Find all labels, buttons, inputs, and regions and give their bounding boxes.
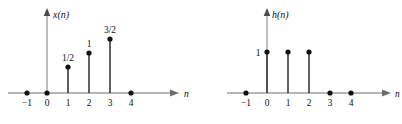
tick-label: −1 [241,98,251,108]
stem-item: 3/2 [104,25,116,93]
zero-sample-dot [348,90,353,95]
x-axis-variable-label: n [395,89,400,99]
amplitude-label-one: 1 [256,48,261,58]
tick-label: 3 [328,98,333,108]
tick-label-group-h: −1 0 1 2 3 4 [241,98,354,108]
y-axis-arrowhead [264,8,271,16]
signal-label-h: h(n) [272,9,289,21]
zero-sample-dot [44,90,49,95]
tick-label: 1 [286,98,291,108]
zero-sample-dot [327,90,332,95]
tick-label: 2 [87,98,92,108]
x-axis-arrowhead [382,90,391,97]
y-axis-arrowhead [44,8,51,16]
stem-dot [86,50,91,55]
zero-sample-dot [243,90,248,95]
tick-label: 0 [45,98,50,108]
stem-item [264,49,269,93]
tick-label-group-x: −1 0 1 2 3 4 [22,98,134,108]
stem-dot [264,49,269,54]
stem-dot [285,49,290,54]
zero-sample-dot [24,90,29,95]
stem-item: 1 [86,39,91,93]
tick-label: 2 [307,98,312,108]
stem-value-label: 3/2 [104,25,116,35]
tick-label: 4 [129,98,134,108]
plot-x-of-n: x(n) n 1/2 1 3/2 [0,0,201,124]
signal-label-x: x(n) [52,9,70,21]
stem-dot [107,36,112,41]
zero-sample-dot [128,90,133,95]
plot-x-canvas: x(n) n 1/2 1 3/2 [0,0,201,124]
stem-item [285,49,290,93]
stem-dot [65,64,70,69]
tick-label: −1 [22,98,32,108]
stem-group-h [264,49,311,93]
plot-h-of-n: h(n) n 1 [201,0,402,124]
tick-label: 4 [349,98,354,108]
tick-label: 3 [108,98,113,108]
stem-dot [306,49,311,54]
plot-h-canvas: h(n) n 1 [201,0,402,124]
stem-value-label: 1 [87,39,92,49]
x-axis-variable-label: n [184,89,189,99]
tick-label: 0 [265,98,270,108]
stem-value-label: 1/2 [62,53,74,63]
stem-item: 1/2 [62,53,74,93]
stem-item [306,49,311,93]
stem-plot-figure: x(n) n 1/2 1 3/2 [0,0,402,124]
stem-group-x: 1/2 1 3/2 [62,25,116,93]
tick-label: 1 [66,98,71,108]
x-axis-arrowhead [170,90,179,97]
